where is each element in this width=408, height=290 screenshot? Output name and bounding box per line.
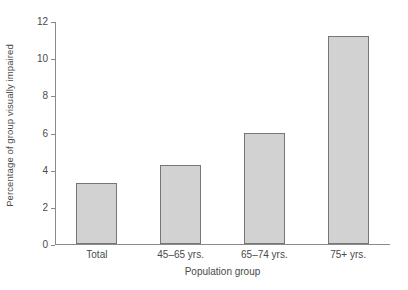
x-axis-tick-label: 45–65 yrs. bbox=[139, 249, 223, 261]
y-axis-tick-mark bbox=[51, 245, 55, 246]
bar bbox=[244, 133, 285, 245]
y-axis-tick-mark bbox=[51, 59, 55, 60]
x-axis-tick-label: 65–74 yrs. bbox=[223, 249, 307, 261]
y-axis-tick-label: 0 bbox=[26, 240, 48, 250]
y-axis-tick-label: 6 bbox=[26, 129, 48, 139]
y-axis-tick-mark bbox=[51, 96, 55, 97]
y-axis-tick-label: 2 bbox=[26, 203, 48, 213]
x-axis-tick-label: Total bbox=[55, 249, 139, 261]
y-axis-line bbox=[55, 22, 56, 245]
y-axis-tick-label: 8 bbox=[26, 91, 48, 101]
y-axis-tick-mark bbox=[51, 134, 55, 135]
x-axis-line bbox=[55, 244, 390, 245]
y-axis-tick-mark bbox=[51, 171, 55, 172]
bar bbox=[328, 36, 369, 244]
y-axis-title: Percentage of group visually impaired bbox=[0, 0, 18, 250]
bar bbox=[76, 183, 117, 244]
y-axis-tick-mark bbox=[51, 208, 55, 209]
bar bbox=[160, 165, 201, 244]
bar-chart: Percentage of group visually impaired 02… bbox=[0, 0, 408, 290]
plot-area bbox=[55, 22, 390, 245]
y-axis-tick-label: 4 bbox=[26, 166, 48, 176]
x-axis-title: Population group bbox=[55, 266, 390, 277]
y-axis-tick-label: 10 bbox=[26, 54, 48, 64]
x-axis-tick-labels: Total45–65 yrs.65–74 yrs.75+ yrs. bbox=[55, 249, 390, 265]
y-axis-tick-labels: 024681012 bbox=[20, 0, 48, 290]
y-axis-tick-mark bbox=[51, 22, 55, 23]
y-axis-title-label: Percentage of group visually impaired bbox=[4, 44, 15, 207]
x-axis-tick-label: 75+ yrs. bbox=[306, 249, 390, 261]
y-axis-tick-label: 12 bbox=[26, 17, 48, 27]
